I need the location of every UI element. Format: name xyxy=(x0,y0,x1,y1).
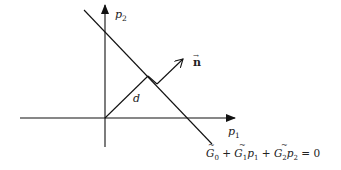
decision-line xyxy=(84,10,212,144)
diagram-canvas: p2 p1 d n → G0 + G1p1 + G2p2 = 0 ~ ~ ~ xyxy=(0,0,341,170)
foot-marker xyxy=(148,76,157,84)
distance-label: d xyxy=(133,92,140,105)
tilde-accent: ~ xyxy=(208,141,215,150)
normal-vector-label: n → xyxy=(193,52,201,69)
tilde-accent: ~ xyxy=(281,141,288,150)
distance-segment xyxy=(105,76,148,118)
y-axis-label: p2 xyxy=(115,8,127,23)
svg-text:→: → xyxy=(193,52,199,60)
tilde-accent: ~ xyxy=(239,141,246,150)
line-equation: G0 + G1p1 + G2p2 = 0 ~ ~ ~ xyxy=(206,141,320,162)
normal-vector-arrow xyxy=(157,59,183,84)
x-axis-label: p1 xyxy=(228,125,240,140)
svg-text:G0 + G1p1 + G2p2 = 0: G0 + G1p1 + G2p2 = 0 xyxy=(206,147,320,162)
